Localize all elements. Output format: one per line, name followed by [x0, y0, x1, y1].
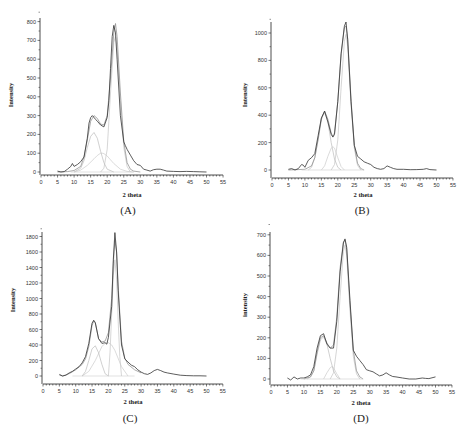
x-tick-label: 35 [154, 179, 160, 185]
y-tick-label: 1000 [26, 296, 38, 302]
x-tick-label: 10 [302, 182, 308, 188]
y-tick-label: 400 [258, 112, 267, 118]
series-experimental [58, 25, 207, 172]
series-experimental [288, 22, 436, 170]
x-tick-label: 5 [58, 388, 61, 394]
y-tick-label: 300 [257, 314, 266, 320]
y-tick-label: 600 [29, 327, 38, 333]
series-fit [304, 240, 363, 379]
panel-label: (C) [123, 412, 138, 425]
x-tick-label: 40 [171, 388, 177, 394]
y-axis-title: Intensity [9, 287, 16, 312]
y-axis-title: intensity [241, 292, 248, 317]
y-tick-label: 500 [27, 75, 36, 81]
y-tick-label: 100 [27, 150, 36, 156]
x-tick-label: 30 [368, 182, 374, 188]
y-tick-label: 400 [27, 94, 36, 100]
y-tick-label: 800 [29, 311, 38, 317]
y-tick-label: 700 [257, 232, 266, 238]
x-tick-label: 45 [187, 179, 193, 185]
x-tick-label: 55 [450, 182, 456, 188]
series-component [330, 245, 360, 379]
x-tick-label: 40 [170, 179, 176, 185]
x-tick-label: 25 [121, 179, 127, 185]
x-tick-label: 45 [416, 389, 422, 395]
x-axis-title: 2 theta [123, 191, 143, 198]
panel-label: (B) [355, 204, 370, 217]
x-tick-label: 50 [203, 388, 209, 394]
series-experimental [287, 239, 435, 380]
x-tick-label: 0 [270, 182, 273, 188]
x-tick-label: 40 [400, 389, 406, 395]
y-tick-label: 0 [35, 373, 38, 379]
y-tick-label: 600 [27, 56, 36, 62]
series-fit [59, 240, 141, 376]
x-tick-label: 35 [383, 389, 389, 395]
x-tick-label: 15 [318, 182, 324, 188]
x-axis-title: 2 theta [124, 398, 144, 405]
series-component [331, 34, 361, 170]
y-tick-label: 800 [258, 57, 267, 63]
y-tick-label: 600 [258, 85, 267, 91]
y-tick-label: 100 [257, 355, 266, 361]
y-tick-label: 0 [264, 167, 267, 173]
y-tick-label: 300 [27, 113, 36, 119]
x-tick-label: 20 [334, 389, 340, 395]
chart-panel-b: 0510152025303540455055020040060080010002… [241, 19, 456, 217]
series-fit [58, 24, 141, 173]
x-tick-label: 10 [301, 389, 307, 395]
x-tick-label: 30 [138, 388, 144, 394]
y-tick-label: 1400 [26, 265, 38, 271]
y-tick-label: 1000 [255, 30, 267, 36]
x-tick-label: 0 [39, 179, 42, 185]
x-tick-label: 55 [220, 388, 226, 394]
x-tick-label: 30 [367, 389, 373, 395]
y-tick-label: 1800 [26, 234, 38, 240]
x-tick-label: 15 [88, 179, 94, 185]
panel-label: (A) [120, 204, 136, 217]
x-tick-label: 0 [41, 388, 44, 394]
x-tick-label: 30 [137, 179, 143, 185]
x-tick-label: 5 [286, 389, 289, 395]
y-tick-label: 400 [257, 294, 266, 300]
y-tick-label: 0 [263, 376, 266, 382]
x-tick-label: 0 [269, 389, 272, 395]
x-tick-label: 45 [417, 182, 423, 188]
y-tick-label: 600 [257, 252, 266, 258]
y-tick-label: 800 [27, 19, 36, 25]
x-tick-label: 5 [56, 179, 59, 185]
series-component [101, 37, 131, 172]
chart-panel-a: 0510152025303540455055010020030040050060… [7, 12, 226, 217]
series-experimental [59, 233, 206, 376]
figure-canvas: 0510152025303540455055010020030040050060… [0, 0, 471, 439]
y-tick-label: 1200 [26, 280, 38, 286]
y-axis-title: Intensity [241, 82, 248, 107]
panel-label: (D) [353, 412, 369, 425]
chart-panel-d: 0510152025303540455055010020030040050060… [241, 225, 455, 426]
y-tick-label: 500 [257, 273, 266, 279]
x-tick-label: 35 [154, 388, 160, 394]
x-axis-title: 2 theta [352, 399, 372, 406]
x-tick-label: 15 [317, 389, 323, 395]
y-tick-label: 200 [258, 140, 267, 146]
x-tick-label: 50 [433, 182, 439, 188]
x-tick-label: 20 [104, 179, 110, 185]
y-tick-label: 200 [257, 335, 266, 341]
y-tick-label: 200 [27, 131, 36, 137]
x-axis-title: 2 theta [354, 191, 374, 198]
y-axis-title: Intensity [7, 82, 14, 107]
x-tick-label: 45 [187, 388, 193, 394]
y-tick-label: 0 [33, 169, 36, 175]
x-tick-label: 5 [287, 182, 290, 188]
y-tick-label: 400 [29, 342, 38, 348]
x-tick-label: 25 [350, 389, 356, 395]
x-tick-label: 25 [122, 388, 128, 394]
x-tick-label: 25 [351, 182, 357, 188]
x-tick-label: 50 [203, 179, 209, 185]
x-tick-label: 35 [384, 182, 390, 188]
x-tick-label: 10 [71, 179, 77, 185]
x-tick-label: 20 [105, 388, 111, 394]
y-tick-label: 200 [29, 358, 38, 364]
x-tick-label: 55 [449, 389, 455, 395]
x-tick-label: 15 [89, 388, 95, 394]
